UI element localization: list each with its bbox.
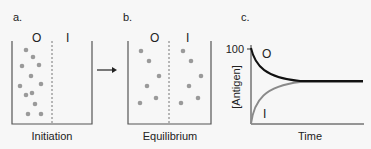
curve-inside	[251, 82, 363, 124]
antigen-dot-inside	[179, 101, 184, 106]
antigen-dot-outside	[139, 49, 144, 54]
dots-a	[18, 48, 44, 117]
panel-b-label: b.	[123, 11, 132, 23]
antigen-dot-outside	[154, 96, 159, 101]
inside-compartment-label: I	[66, 31, 69, 45]
panel-b: b. O I Equilibrium	[123, 11, 211, 142]
panel-a-label: a.	[13, 11, 22, 23]
antigen-dot-inside	[196, 96, 201, 101]
outside-compartment-label: O	[150, 31, 159, 45]
caption-initiation: Initiation	[32, 130, 73, 142]
antigen-dot-outside	[24, 93, 29, 98]
antigen-dot-outside	[31, 55, 36, 60]
antigen-dot-outside	[147, 59, 152, 64]
antigen-dot-outside	[39, 82, 44, 87]
dots-b	[138, 49, 204, 106]
x-axis-label: Time	[298, 130, 322, 142]
outside-compartment-label: O	[32, 31, 41, 45]
antigen-dot-outside	[30, 91, 35, 96]
antigen-dot-outside	[37, 63, 42, 68]
panel-a: a. O I Initiation	[12, 11, 92, 142]
antigen-dot-inside	[187, 84, 192, 89]
antigen-dot-outside	[39, 112, 44, 117]
antigen-dot-inside	[199, 74, 204, 79]
curve-label-inside: I	[263, 107, 266, 121]
antigen-dot-outside	[157, 74, 162, 79]
curve-label-outside: O	[262, 47, 271, 61]
figure: a. O I Initiation b. O I Equilibrium c. …	[0, 0, 371, 149]
panel-c-label: c.	[241, 11, 250, 23]
antigen-dot-inside	[181, 49, 186, 54]
y-axis-label: [Antigen]	[230, 65, 242, 108]
caption-equilibrium: Equilibrium	[143, 130, 197, 142]
panel-c: c. 100 [Antigen] Time O I	[226, 11, 364, 142]
antigen-dot-outside	[20, 64, 25, 69]
antigen-dot-outside	[18, 84, 23, 89]
inside-compartment-label: I	[186, 31, 189, 45]
antigen-dot-outside	[33, 102, 38, 107]
antigen-dot-outside	[26, 112, 31, 117]
arrow-right-icon	[97, 67, 117, 73]
y-tick-label: 100	[226, 43, 244, 55]
antigen-dot-outside	[24, 48, 29, 53]
antigen-dot-outside	[138, 101, 143, 106]
antigen-dot-inside	[189, 59, 194, 64]
antigen-dot-outside	[29, 74, 34, 79]
antigen-dot-outside	[145, 84, 150, 89]
